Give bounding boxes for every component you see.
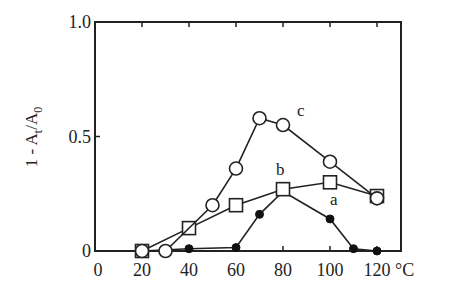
x-axis-unit-label: °C [395,260,414,280]
data-point [232,244,240,252]
data-point [373,247,381,255]
plot-frame [95,22,401,251]
data-series: abc [136,101,384,258]
series-c: c [136,101,384,258]
data-point [253,112,266,125]
data-point [256,210,264,218]
x-tick-label: 120 [364,260,391,280]
data-point [277,183,290,196]
data-point [326,215,334,223]
y-tick-label: 1.0 [69,12,92,32]
axis-ticks [95,22,377,251]
x-tick-label: 60 [227,260,245,280]
y-tick-labels: 00.51.0 [69,12,92,261]
data-point [350,245,358,253]
x-tick-label: 40 [180,260,198,280]
data-point [185,245,193,253]
data-point [324,155,337,168]
data-point [230,199,243,212]
chart: 020406080100120 00.51.0 abc °C 1 - At/A0 [0,0,451,289]
data-point [371,192,384,205]
x-tick-label: 20 [133,260,151,280]
series-label-a: a [330,190,338,209]
data-point [324,176,337,189]
y-tick-label: 0 [82,241,91,261]
data-point [159,245,172,258]
data-point [136,245,149,258]
x-tick-label: 100 [317,260,344,280]
x-tick-label: 80 [274,260,292,280]
series-label-b: b [276,160,285,179]
data-point [230,162,243,175]
series-label-c: c [297,101,305,120]
y-axis-label: 1 - At/A0 [22,107,45,167]
y-tick-label: 0.5 [69,127,92,147]
x-tick-label: 0 [94,260,103,280]
x-tick-labels: 020406080100120 [94,260,391,280]
data-point [206,199,219,212]
data-point [277,119,290,132]
axes-box [95,22,401,251]
